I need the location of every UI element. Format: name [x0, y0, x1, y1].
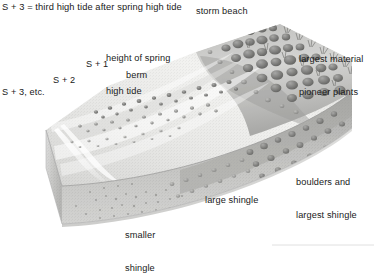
spring-high-tide-label-line1: height of spring	[106, 53, 170, 64]
spring-high-tide-label-line2: high tide	[106, 86, 170, 97]
s-plus-3-etc-label: S + 3, etc.	[2, 87, 45, 98]
notation-key-label: S + 3 = third high tide after spring hig…	[2, 2, 182, 13]
smaller-shingle-label-line2: shingle	[125, 263, 155, 274]
smaller-shingle-label-line1: smaller	[125, 230, 155, 241]
boulders-label: boulders and largest shingle	[296, 155, 357, 243]
berm-label: berm	[126, 70, 147, 81]
large-shingle-label: large shingle	[205, 195, 258, 206]
pioneer-plants-label-line2: pioneer plants	[299, 87, 363, 98]
s-plus-1-label: S + 1	[86, 59, 108, 70]
storm-beach-label: storm beach	[196, 6, 248, 17]
largest-material-label: largest material pioneer plants	[299, 32, 363, 120]
largest-material-label-line1: largest material	[299, 54, 363, 65]
s-plus-2-label: S + 2	[53, 75, 75, 86]
boulders-label-line1: boulders and	[296, 177, 357, 188]
boulders-label-line2: largest shingle	[296, 210, 357, 221]
smaller-shingle-label: smaller shingle	[125, 208, 155, 277]
